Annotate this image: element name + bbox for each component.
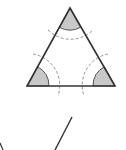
diagonal-line [55, 117, 72, 150]
top-angle-sector [59, 8, 80, 30]
corner-stroke [0, 143, 3, 150]
triangle-angles-diagram [0, 0, 126, 150]
left-angle-sector [27, 67, 49, 86]
right-angle-sector [93, 67, 115, 86]
